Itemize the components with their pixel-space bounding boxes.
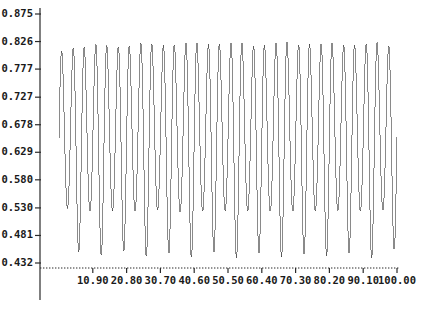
x-tick-label: 100.00 (367, 275, 421, 286)
x-axis-ticks (93, 268, 397, 273)
data-series-signal (59, 42, 397, 258)
y-tick-label: 0.777 (0, 63, 33, 74)
y-tick-label: 0.432 (0, 257, 33, 268)
y-tick-label: 0.629 (0, 146, 33, 157)
y-tick-label: 0.727 (0, 91, 33, 102)
y-tick-label: 0.678 (0, 119, 33, 130)
y-tick-label: 0.580 (0, 174, 33, 185)
y-tick-label: 0.875 (0, 8, 33, 19)
y-tick-label: 0.530 (0, 202, 33, 213)
y-tick-label: 0.481 (0, 229, 33, 240)
y-tick-label: 0.826 (0, 36, 33, 47)
